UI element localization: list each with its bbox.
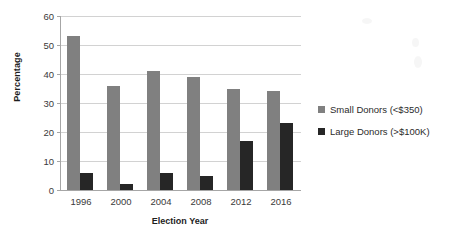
scan-artifact [362, 18, 372, 24]
x-axis-tick-label: 1996 [61, 196, 101, 207]
bar [200, 176, 213, 191]
y-axis-tick [57, 190, 61, 191]
legend-swatch-icon [318, 106, 325, 113]
plot-area: 0102030405060199620002004200820122016 [60, 16, 301, 191]
legend-label: Large Donors (>$100K) [330, 126, 430, 137]
bar-group: 2000 [101, 16, 141, 190]
bar [267, 91, 280, 190]
scan-artifact [412, 38, 419, 47]
bar [107, 86, 120, 190]
bar-group: 2004 [141, 16, 181, 190]
bar-group: 2016 [261, 16, 301, 190]
y-axis-tick-label: 10 [43, 156, 54, 167]
legend-item[interactable]: Large Donors (>$100K) [318, 126, 430, 137]
bar [280, 123, 293, 190]
legend-label: Small Donors (<$350) [330, 104, 423, 115]
bar-group: 2008 [181, 16, 221, 190]
y-axis-tick-label: 60 [43, 11, 54, 22]
bar [187, 77, 200, 190]
legend-item[interactable]: Small Donors (<$350) [318, 104, 430, 115]
legend-swatch-icon [318, 128, 325, 135]
x-axis-tick-label: 2000 [101, 196, 141, 207]
bar [147, 71, 160, 190]
y-axis-title: Percentage [12, 22, 22, 132]
y-axis-tick-label: 40 [43, 69, 54, 80]
y-axis-tick-label: 50 [43, 40, 54, 51]
scan-artifact [414, 56, 422, 68]
x-axis-tick-label: 2016 [261, 196, 301, 207]
chart-legend: Small Donors (<$350)Large Donors (>$100K… [318, 104, 430, 148]
bar [120, 184, 133, 190]
y-axis-tick-label: 0 [49, 185, 54, 196]
bar [80, 173, 93, 190]
bar-group: 1996 [61, 16, 101, 190]
x-axis-title: Election Year [60, 216, 300, 226]
x-axis-tick-label: 2012 [221, 196, 261, 207]
x-axis-tick-label: 2004 [141, 196, 181, 207]
y-axis-tick-label: 30 [43, 98, 54, 109]
bar [67, 36, 80, 190]
bar [160, 173, 173, 190]
bar [227, 89, 240, 191]
bar [240, 141, 253, 190]
bar-group: 2012 [221, 16, 261, 190]
bar-chart-figure: Percentage 01020304050601996200020042008… [0, 0, 453, 239]
y-axis-tick-label: 20 [43, 127, 54, 138]
x-axis-tick-label: 2008 [181, 196, 221, 207]
